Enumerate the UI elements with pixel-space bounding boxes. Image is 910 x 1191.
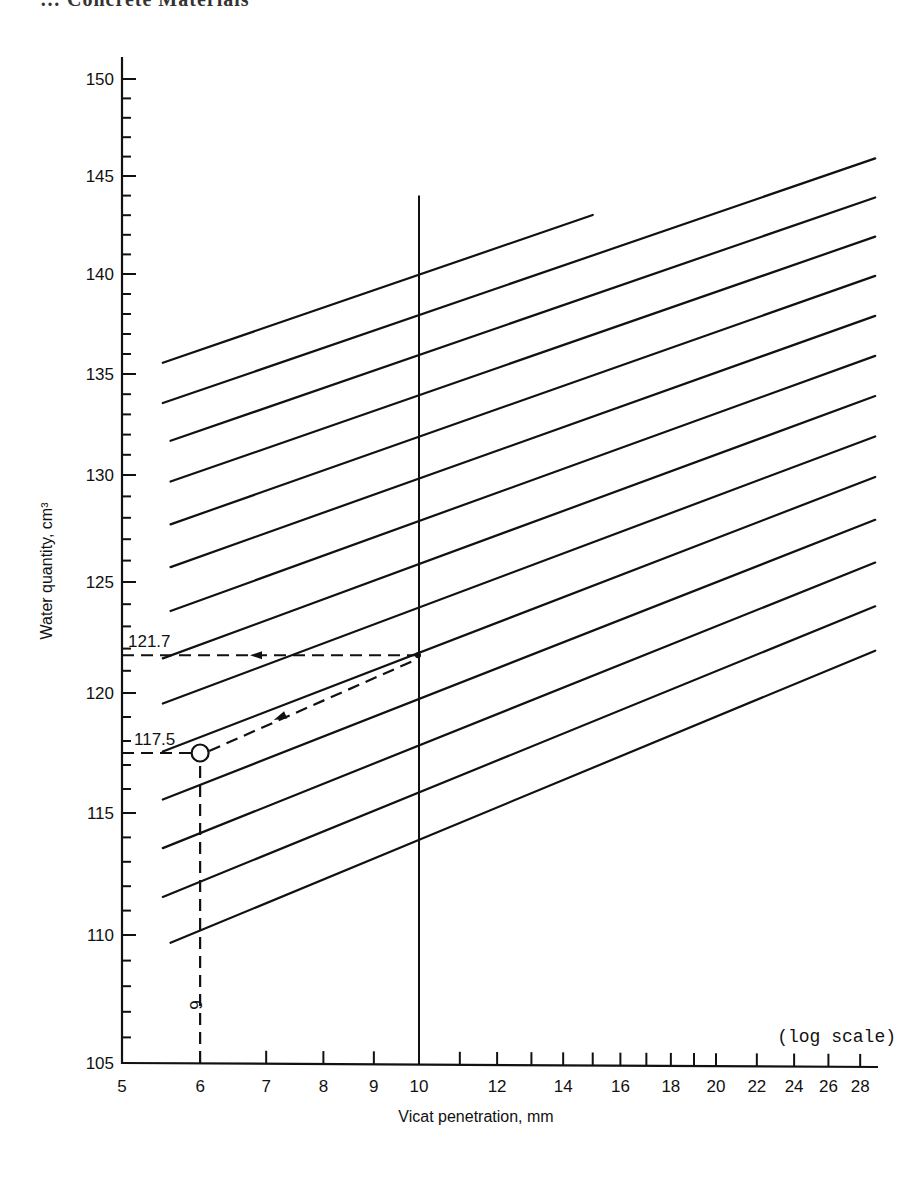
x-tick-label: 22	[747, 1077, 766, 1096]
y-tick-label: 140	[86, 265, 114, 284]
y-tick-label: 105	[86, 1054, 114, 1073]
series-line-140	[163, 215, 593, 363]
result-value-label: 121.7	[128, 632, 171, 651]
series-line-120	[163, 520, 875, 800]
series-line-132	[171, 276, 876, 524]
y-axis-ticks: 105110115120125130135140145150	[86, 70, 136, 1073]
y-tick-label: 130	[86, 466, 114, 485]
x-tick-label: 6	[195, 1077, 204, 1096]
x-tick-label: 8	[319, 1077, 328, 1096]
y-tick-label: 115	[87, 804, 114, 823]
x-tick-label: 28	[851, 1077, 870, 1096]
y-tick-label: 135	[86, 365, 114, 384]
line-family	[163, 158, 875, 942]
arrow-along-line-icon	[272, 711, 287, 724]
dashed-guide-parallel	[209, 659, 417, 751]
x-tick-label: 5	[117, 1077, 126, 1096]
intersection-dot	[415, 652, 421, 658]
x-tick-label: 20	[707, 1077, 726, 1096]
x-tick-label: 9	[369, 1077, 378, 1096]
series-line-124	[163, 436, 875, 703]
x-axis-title: Vicat penetration, mm	[398, 1108, 553, 1125]
y-tick-label: 145	[86, 167, 114, 186]
x-tick-label: 18	[661, 1077, 680, 1096]
measured-point-marker	[192, 745, 209, 762]
arrow-left-icon	[250, 651, 262, 659]
y-tick-label: 150	[86, 70, 114, 89]
measured-x-label: 6	[186, 1000, 205, 1009]
series-line-128	[171, 356, 876, 611]
series-line-116	[163, 606, 875, 897]
x-tick-label: 14	[554, 1077, 573, 1096]
series-line-114	[171, 651, 876, 943]
x-axis-ticks: 5678910121416182022242628	[117, 1051, 869, 1096]
y-tick-label: 110	[87, 926, 114, 945]
x-tick-label: 26	[819, 1077, 838, 1096]
measured-value-label: 117.5	[134, 730, 175, 749]
x-tick-label: 10	[410, 1077, 429, 1096]
x-tick-label: 12	[488, 1077, 507, 1096]
x-tick-label: 24	[785, 1077, 804, 1096]
x-tick-label: 16	[611, 1077, 630, 1096]
series-line-130	[171, 316, 876, 567]
y-tick-label: 125	[86, 573, 114, 592]
series-line-126	[163, 396, 875, 658]
series-line-136	[171, 197, 876, 440]
y-tick-label: 120	[86, 684, 114, 703]
y-axis-title: Water quantity, cm³	[38, 502, 55, 640]
series-line-122	[163, 477, 875, 752]
x-tick-label: 7	[261, 1077, 270, 1096]
series-line-138	[163, 158, 875, 403]
series-line-134	[171, 237, 876, 482]
series-line-118	[163, 563, 875, 849]
chart: 105110115120125130135140145150 567891012…	[0, 0, 910, 1191]
x-axis	[121, 1063, 878, 1067]
log-scale-note: (log scale)	[777, 1027, 896, 1047]
